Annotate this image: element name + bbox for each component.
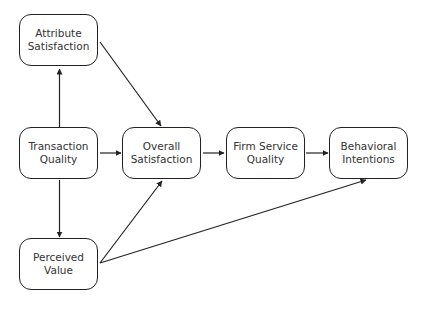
edge-as-os xyxy=(100,42,161,126)
node-firm-service-quality: Firm ServiceQuality xyxy=(226,127,305,179)
edge-pv-os xyxy=(100,181,162,263)
edge-pv-bi xyxy=(100,180,366,263)
node-perceived-value: PerceivedValue xyxy=(19,238,98,290)
node-overall-satisfaction: OverallSatisfaction xyxy=(122,127,201,179)
node-attribute-satisfaction: AttributeSatisfaction xyxy=(19,14,98,66)
node-transaction-quality: TransactionQuality xyxy=(19,127,98,179)
node-behavioral-intentions: BehavioralIntentions xyxy=(329,127,408,179)
